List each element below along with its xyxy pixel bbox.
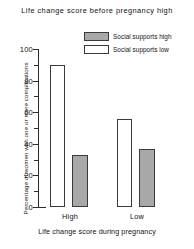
legend-swatch-icon-low [84, 45, 109, 54]
legend-item-social-supports-high: Social supports high [84, 31, 172, 42]
y-axis-tick-labels: 100 80 60 40 20 0 [6, 49, 33, 209]
y-tick-10 [34, 191, 38, 192]
y-tick-70 [34, 96, 38, 97]
legend-swatch-icon-high [84, 32, 109, 41]
legend-label-high: Social supports high [113, 33, 172, 40]
y-tick-40 [33, 144, 38, 145]
plot-area [38, 49, 178, 207]
y-tick-0 [33, 207, 38, 208]
y-tick-label-100: 100 [20, 45, 33, 54]
y-tick-label-20: 20 [24, 171, 33, 180]
y-tick-label-80: 80 [24, 77, 33, 86]
chart-title: Life change score before pregnancy high [0, 6, 194, 15]
y-tick-20 [33, 175, 38, 176]
bar-high-group-social-supports-low [50, 65, 65, 207]
y-tick-30 [34, 160, 38, 161]
bar-low-group-social-supports-low [117, 119, 132, 207]
legend: Social supports high Social supports low [84, 31, 172, 57]
y-tick-50 [34, 128, 38, 129]
x-axis-label: Life change score during pregnancy [0, 227, 194, 236]
y-tick-90 [34, 65, 38, 66]
legend-label-low: Social supports low [113, 46, 169, 53]
x-group-label-low: Low [115, 212, 159, 221]
y-tick-60 [33, 112, 38, 113]
bar-low-group-social-supports-high [139, 149, 155, 207]
bar-high-group-social-supports-high [72, 155, 88, 207]
x-group-label-high: High [48, 212, 92, 221]
legend-item-social-supports-low: Social supports low [84, 44, 172, 55]
y-tick-label-60: 60 [24, 108, 33, 117]
x-axis-line [38, 207, 46, 208]
y-tick-80 [33, 81, 38, 82]
y-tick-label-40: 40 [24, 140, 33, 149]
y-tick-100 [33, 49, 38, 50]
y-axis-line [38, 49, 39, 208]
bar-chart-figure: Life change score before pregnancy high … [0, 0, 194, 249]
